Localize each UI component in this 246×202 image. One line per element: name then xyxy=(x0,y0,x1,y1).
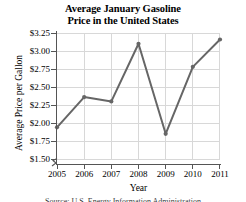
source-note: Source: U.S. Energy Information Administ… xyxy=(0,197,246,202)
x-axis-tick-label: 2010 xyxy=(184,170,202,179)
x-axis-tick-label: 2009 xyxy=(157,170,175,179)
x-axis-title: Year xyxy=(56,183,221,193)
x-axis-tick-label: 2006 xyxy=(75,170,93,179)
x-axis-tick-label: 2008 xyxy=(130,170,148,179)
chart-container: Average January Gasoline Price in the Un… xyxy=(0,0,246,202)
x-axis-tick-label: 2007 xyxy=(102,170,120,179)
x-axis-tick-label: 2005 xyxy=(48,170,66,179)
x-axis-tick-labels: 2005200620072008200920102011 xyxy=(0,0,246,202)
x-axis-tick-label: 2011 xyxy=(211,170,229,179)
